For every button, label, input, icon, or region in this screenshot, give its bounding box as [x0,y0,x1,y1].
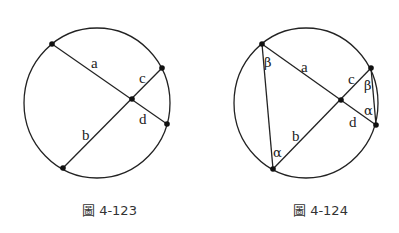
point-top-left [49,41,55,47]
figure-4-124: β a c β α d b α 圖 4-124 [234,28,379,218]
point-intersection [129,96,135,102]
circle [24,28,170,178]
diagram-canvas: a c d b 圖 4-123 β a c β α d b α 圖 4-124 [0,0,399,233]
label-a: a [91,55,98,71]
label-b: b [292,128,300,144]
angle-alpha-right: α [364,103,373,118]
angle-beta-right: β [364,78,372,93]
label-b: b [82,127,90,143]
point-top-left [259,41,265,47]
label-d: d [139,111,147,127]
point-bottom-left [60,165,66,171]
chord-a-d [52,44,167,124]
caption: 圖 4-124 [293,203,348,218]
point-lower-right [164,121,170,127]
label-c: c [348,71,355,87]
label-d: d [349,114,357,130]
circle [234,28,378,178]
point-intersection [338,97,344,103]
label-c: c [139,70,146,86]
point-upper-right [368,65,374,71]
chord-a-d [262,44,376,125]
figure-4-123: a c d b 圖 4-123 [24,28,170,218]
point-lower-right [373,122,379,128]
angle-beta-left: β [264,55,272,70]
point-bottom-left [270,166,276,172]
chord-b-c [63,68,162,168]
point-upper-right [159,65,165,71]
label-a: a [301,59,308,75]
angle-alpha-left: α [273,145,282,160]
caption: 圖 4-123 [82,203,137,218]
